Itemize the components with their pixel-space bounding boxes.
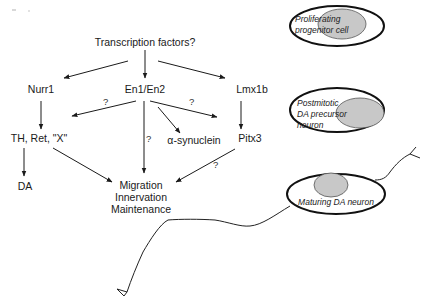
pathway-arrows xyxy=(24,50,241,182)
node-alpha-synuclein: α-synuclein xyxy=(167,134,221,146)
axon xyxy=(127,206,290,292)
node-da: DA xyxy=(18,180,33,192)
cell-maturing-da-neuron: Maturing DA neuron xyxy=(117,147,420,296)
arrow-root-to-nurr1 xyxy=(64,61,128,78)
cell-label-line: Postmitotic xyxy=(297,98,339,108)
node-lmx1b: Lmx1b xyxy=(236,83,268,95)
cell-label-line: neuron xyxy=(297,120,324,130)
arrow-th-to-outcome xyxy=(53,148,112,182)
cell-label-line: Maturing DA neuron xyxy=(298,197,374,207)
cell-label-line: progenitor cell xyxy=(294,25,350,35)
cell-label-line: Proliferating xyxy=(295,14,341,24)
axon-terminal-icon xyxy=(117,289,127,296)
node-transcription-factors: Transcription factors? xyxy=(95,36,196,48)
node-nurr1: Nurr1 xyxy=(28,83,54,95)
cell-postmitotic-precursor: Postmitotic DA precursor neuron xyxy=(290,88,384,132)
uncertain-mark: ? xyxy=(189,96,194,107)
arrow-pitx3-to-outcome xyxy=(176,149,235,182)
node-th-ret-x: TH, Ret, "X" xyxy=(11,132,68,144)
arrow-root-to-lmx1b xyxy=(158,61,225,78)
uncertain-mark: ? xyxy=(103,96,108,107)
node-outcome-innervation: Innervation xyxy=(115,191,167,203)
node-outcome-migration: Migration xyxy=(119,179,162,191)
cell-label-line: DA precursor xyxy=(297,109,348,119)
arrow-en-to-synuclein xyxy=(158,107,180,133)
dopaminergic-development-diagram: Transcription factors? Nurr1 En1/En2 Lmx… xyxy=(0,0,434,307)
cell-nucleus xyxy=(314,173,348,197)
node-en1-en2: En1/En2 xyxy=(125,83,165,95)
cell-proliferating-progenitor: Proliferating progenitor cell xyxy=(290,6,384,46)
node-outcome-maintenance: Maintenance xyxy=(111,203,171,215)
scan-artifact xyxy=(12,9,30,12)
dendrite xyxy=(375,147,420,180)
uncertain-mark: ? xyxy=(146,133,151,144)
node-pitx3: Pitx3 xyxy=(238,132,262,144)
